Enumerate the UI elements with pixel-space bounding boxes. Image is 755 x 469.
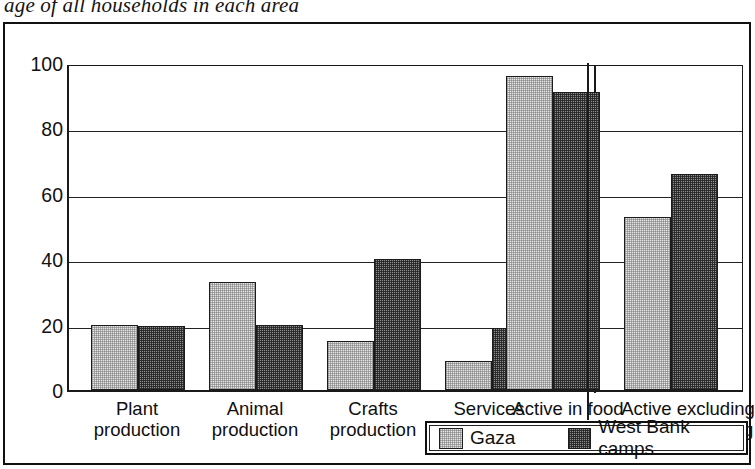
x-label-animal-production: Animal production — [191, 398, 319, 440]
legend-label-west-bank-camps: West Bank camps — [598, 416, 743, 460]
chart-page: age of all households in each area 0 20 … — [0, 0, 755, 469]
bar-westbank-active-excluding-food-processing — [671, 174, 718, 390]
group-divider-full — [587, 63, 589, 420]
y-tick-60: 60 — [41, 186, 63, 206]
bar-westbank-animal-production — [256, 325, 303, 390]
bar-gaza-services-and-trade — [445, 361, 492, 390]
legend-inner: Gaza West Bank camps — [429, 425, 744, 451]
bar-series-container — [69, 66, 742, 390]
x-label-plant-production: Plant production — [73, 398, 201, 440]
bar-gaza-animal-production — [209, 282, 256, 390]
legend-label-gaza: Gaza — [470, 427, 515, 449]
plot-area — [67, 65, 743, 392]
legend-item-gaza: Gaza — [430, 427, 515, 449]
bar-gaza-crafts-production — [327, 341, 374, 390]
bar-gaza-plant-production — [91, 325, 138, 390]
y-tick-0: 0 — [52, 382, 63, 402]
y-tick-80: 80 — [41, 121, 63, 141]
bar-gaza-active-excluding-food-processing — [624, 217, 671, 390]
y-axis-labels: 0 20 40 60 80 100 — [5, 65, 65, 392]
y-tick-40: 40 — [41, 251, 63, 271]
y-tick-100: 100 — [30, 55, 63, 75]
bar-gaza-active-in-food-production — [506, 76, 553, 390]
legend-item-west-bank-camps: West Bank camps — [559, 416, 743, 460]
figure-frame: 0 20 40 60 80 100 Plant production — [3, 22, 751, 465]
y-tick-20: 20 — [41, 317, 63, 337]
bar-westbank-plant-production — [138, 326, 185, 390]
x-label-crafts-production: Crafts production — [309, 398, 437, 440]
bar-westbank-crafts-production — [374, 259, 421, 390]
bar-westbank-active-in-food-production — [553, 92, 600, 390]
chart-caption: age of all households in each area — [4, 0, 299, 18]
legend-swatch-light-icon — [439, 428, 463, 449]
legend-swatch-dark-icon — [568, 428, 591, 449]
legend: Gaza West Bank camps — [425, 421, 748, 455]
